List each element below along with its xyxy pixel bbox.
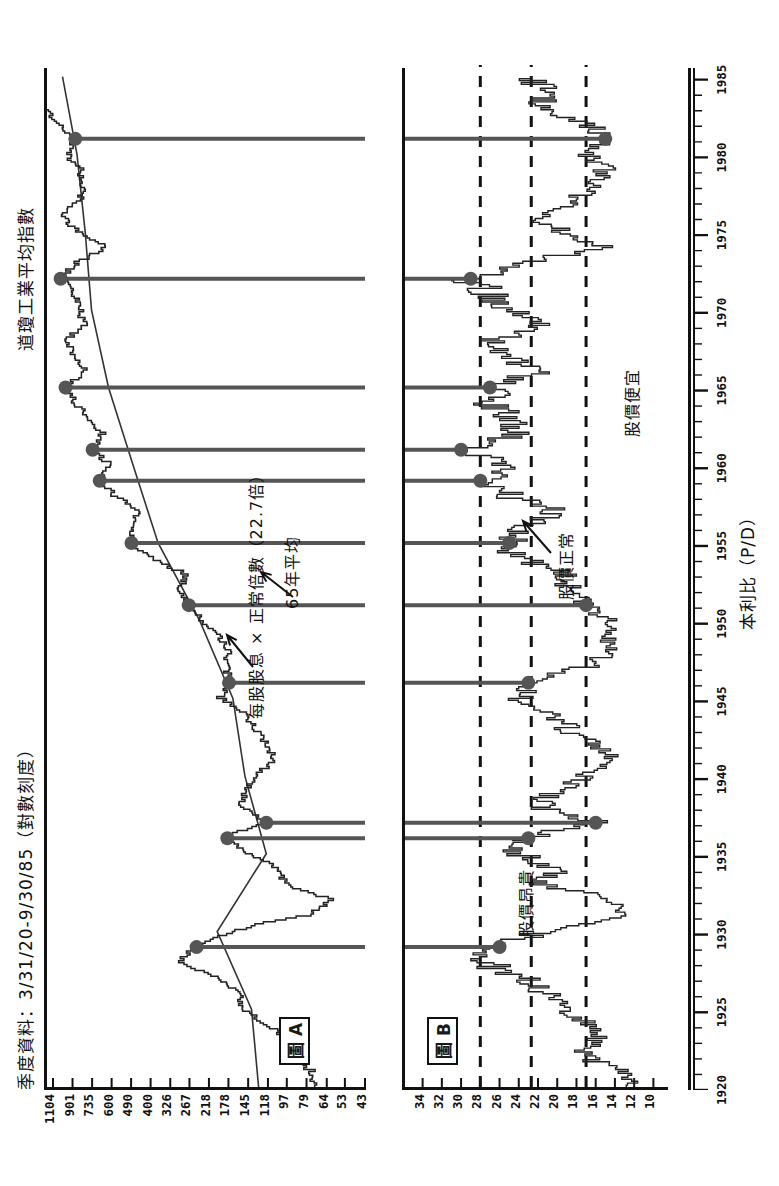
panel-a-marker-dot <box>182 598 196 612</box>
panel-b-tag: 圖 B <box>427 1017 458 1065</box>
rotated-figure-frame: 季度資料：3/31/20-9/30/85（對數刻度） 道瓊工業平均指數 圖 A … <box>0 0 779 1186</box>
panel-a-y-tick-label: 400 <box>140 1094 155 1128</box>
panel-b-marker-dot <box>473 474 487 488</box>
panel-a-y-tick-label: 79 <box>296 1094 311 1128</box>
panel-a-y-tick-label: 600 <box>101 1094 116 1128</box>
x-axis-year-label: 1965 <box>714 374 729 408</box>
x-axis-year-label: 1980 <box>714 140 729 174</box>
panel-a-dividend-annotation: 每股股息 × 正常倍數（22.7倍） <box>243 466 267 719</box>
panel-a-canvas <box>47 65 369 1087</box>
panel-a-y-tick-label: 97 <box>276 1094 291 1128</box>
panel-a-y-tick-label: 901 <box>62 1094 77 1128</box>
panel-b-marker-dot <box>521 676 535 690</box>
panel-b-y-tick-label: 26 <box>489 1094 504 1126</box>
panel-a-marker-dot <box>59 381 73 395</box>
panel-b-y-tick-label: 12 <box>623 1094 638 1126</box>
panel-a-marker-dot <box>259 816 273 830</box>
panel-a-y-tick-label: 53 <box>334 1094 349 1128</box>
x-axis-year-label: 1930 <box>714 918 729 952</box>
panel-b-normal-annotation: 股價正常 <box>553 532 577 600</box>
panel-a-marker-dot <box>54 272 68 286</box>
panel-b-canvas <box>405 65 671 1087</box>
panel-a-plot-area: 圖 A 每股股息 × 正常倍數（22.7倍） 65年平均 <box>44 68 366 1090</box>
panel-b-cheap-annotation: 股價便宜 <box>619 369 643 437</box>
panel-b-marker-dot <box>502 536 516 550</box>
panel-a-y-tick-label: 64 <box>316 1094 331 1128</box>
panel-b-marker-dot <box>589 816 603 830</box>
panel-a-y-tick-label: 326 <box>159 1094 174 1128</box>
panel-a-y-tick-label: 218 <box>198 1094 213 1128</box>
panel-b-y-tick-label: 28 <box>469 1094 484 1126</box>
panel-b-marker-dot <box>454 443 468 457</box>
panel-b-plot-area: 圖 B 股價昂貴 股價正常 股價便宜 <box>402 68 668 1090</box>
x-axis-year-label: 1960 <box>714 451 729 485</box>
panel-b-y-tick-label: 22 <box>527 1094 542 1126</box>
panel-b-marker-dot <box>579 598 593 612</box>
panel-a-average-annotation: 65年平均 <box>279 536 303 609</box>
figure-subtitle: 季度資料：3/31/20-9/30/85（對數刻度） <box>12 740 37 1090</box>
panel-b-expensive-annotation: 股價昂貴 <box>513 869 537 937</box>
panel-a-marker-dot <box>86 443 100 457</box>
panel-b-y-tick-label: 20 <box>546 1094 561 1126</box>
panel-a-y-tick-label: 118 <box>257 1094 272 1128</box>
x-axis-year-label: 1940 <box>714 762 729 796</box>
x-axis-year-label: 1985 <box>714 63 729 97</box>
x-axis-year-label: 1955 <box>714 529 729 563</box>
x-axis-year-label: 1945 <box>714 684 729 718</box>
panel-b-y-tick-label: 16 <box>585 1094 600 1126</box>
panel-a-marker-dot <box>68 132 82 146</box>
x-axis-year-label: 1950 <box>714 607 729 641</box>
panel-b-y-tick-label: 34 <box>412 1094 427 1126</box>
panel-a-dividend-line <box>63 77 267 1087</box>
panel-a-tag: 圖 A <box>279 1017 310 1065</box>
panel-b-y-tick-label: 18 <box>565 1094 580 1126</box>
panel-b-marker-dot <box>598 132 612 146</box>
panel-b-marker-dot <box>483 381 497 395</box>
panel-a-y-tick-label: 267 <box>178 1094 193 1128</box>
x-axis-year-label: 1920 <box>714 1073 729 1107</box>
panel-b-marker-dot <box>464 272 478 286</box>
x-axis-year-label: 1975 <box>714 218 729 252</box>
panel-a-marker-dot <box>222 676 236 690</box>
panel-b-y-tick-label: 24 <box>508 1094 523 1126</box>
panel-a-marker-dot <box>124 536 138 550</box>
panel-a-y-tick-label: 43 <box>354 1094 369 1128</box>
x-axis-year-label: 1925 <box>714 995 729 1029</box>
panel-b-y-tick-label: 30 <box>450 1094 465 1126</box>
panel-b-marker-dot <box>521 831 535 845</box>
x-axis-line <box>688 68 691 1090</box>
panel-b-y-tick-label: 14 <box>604 1094 619 1126</box>
panel-a-marker-dot <box>190 940 204 954</box>
x-axis-year-label: 1970 <box>714 296 729 330</box>
x-axis-title: 本利比（P/D） <box>734 508 759 630</box>
panel-a-marker-dot <box>93 474 107 488</box>
panel-a-y-tick-label: 735 <box>81 1094 96 1128</box>
panel-a-marker-dot <box>220 831 234 845</box>
panel-a-y-tick-label: 178 <box>217 1094 232 1128</box>
panel-a-y-tick-label: 145 <box>237 1094 252 1128</box>
panel-a-y-tick-label: 490 <box>120 1094 135 1128</box>
panel-b-y-tick-label: 10 <box>642 1094 657 1126</box>
x-axis-year-label: 1935 <box>714 840 729 874</box>
figure-left-title: 道瓊工業平均指數 <box>12 207 37 351</box>
panel-b-marker-dot <box>493 940 507 954</box>
panel-a-y-tick-label: 1104 <box>42 1094 57 1128</box>
figure-plate: 季度資料：3/31/20-9/30/85（對數刻度） 道瓊工業平均指數 圖 A … <box>0 0 779 1186</box>
panel-b-y-tick-label: 32 <box>431 1094 446 1126</box>
